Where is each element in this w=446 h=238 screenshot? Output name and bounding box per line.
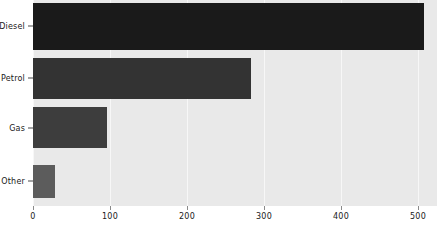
bar-gas — [33, 107, 107, 148]
x-tick-mark-500 — [418, 206, 419, 210]
x-tick-label-0: 0 — [30, 212, 35, 221]
y-tick-label-gas: Gas — [9, 124, 25, 133]
y-tick-label-other: Other — [1, 177, 25, 186]
x-tick-label-200: 200 — [179, 212, 195, 221]
plot-area — [33, 0, 437, 206]
bar-other — [33, 165, 55, 198]
x-tick-mark-200 — [187, 206, 188, 210]
y-tick-mark-diesel — [28, 26, 33, 27]
bar-diesel — [33, 3, 424, 50]
x-tick-mark-0 — [33, 206, 34, 210]
bar-petrol — [33, 58, 251, 99]
y-tick-mark-other — [28, 181, 33, 182]
bar-chart: Diesel Petrol Gas Other 0 100 200 300 40… — [0, 0, 446, 238]
x-tick-label-400: 400 — [333, 212, 349, 221]
x-tick-label-100: 100 — [102, 212, 118, 221]
x-tick-mark-300 — [264, 206, 265, 210]
y-axis: Diesel Petrol Gas Other — [0, 0, 25, 206]
y-tick-label-diesel: Diesel — [0, 22, 25, 31]
x-tick-label-300: 300 — [256, 212, 272, 221]
x-tick-label-500: 500 — [410, 212, 426, 221]
y-tick-mark-gas — [28, 128, 33, 129]
x-tick-mark-100 — [110, 206, 111, 210]
y-tick-mark-petrol — [28, 78, 33, 79]
y-tick-label-petrol: Petrol — [1, 74, 25, 83]
x-tick-mark-400 — [341, 206, 342, 210]
